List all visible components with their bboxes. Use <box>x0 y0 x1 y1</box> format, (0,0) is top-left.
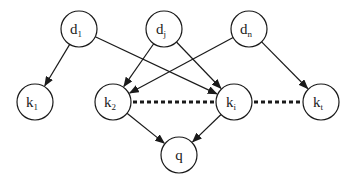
node-ki: ki <box>216 84 252 120</box>
node-kt: kt <box>303 84 339 120</box>
node-label: q <box>175 147 183 163</box>
edge-d1-to-k1 <box>45 44 70 85</box>
diagram-canvas: d1djdnk1k2kiktq <box>0 0 358 182</box>
edge-ki-to-q <box>193 114 221 141</box>
node-q: q <box>161 137 197 173</box>
edge-dj-to-k2 <box>124 44 154 87</box>
node-k2: k2 <box>95 84 131 120</box>
edge-dj-to-ki <box>176 42 220 88</box>
edge-dn-to-kt <box>262 42 308 89</box>
edge-k2-to-q <box>127 113 164 143</box>
node-dj: dj <box>146 11 182 47</box>
node-k1: k1 <box>17 84 53 120</box>
node-dn: dn <box>231 11 267 47</box>
nodes-layer: d1djdnk1k2kiktq <box>17 11 339 173</box>
edges-layer <box>45 37 308 143</box>
node-d1: d1 <box>61 11 97 47</box>
